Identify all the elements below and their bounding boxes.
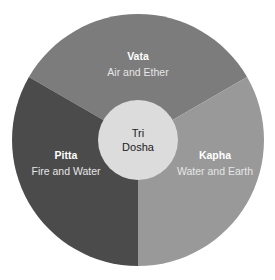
pitta-elements: Fire and Water <box>31 165 100 177</box>
pitta-label: Pitta Fire and Water <box>31 149 100 177</box>
vata-elements: Air and Ether <box>107 66 168 78</box>
center-line1: Tri <box>122 126 154 140</box>
center-line2: Dosha <box>122 140 154 154</box>
center-label: Tri Dosha <box>122 126 154 154</box>
vata-label: Vata Air and Ether <box>107 50 168 78</box>
kapha-label: Kapha Water and Earth <box>177 149 253 177</box>
vata-name: Vata <box>107 50 168 62</box>
kapha-elements: Water and Earth <box>177 165 253 177</box>
pitta-name: Pitta <box>31 149 100 161</box>
kapha-name: Kapha <box>177 149 253 161</box>
